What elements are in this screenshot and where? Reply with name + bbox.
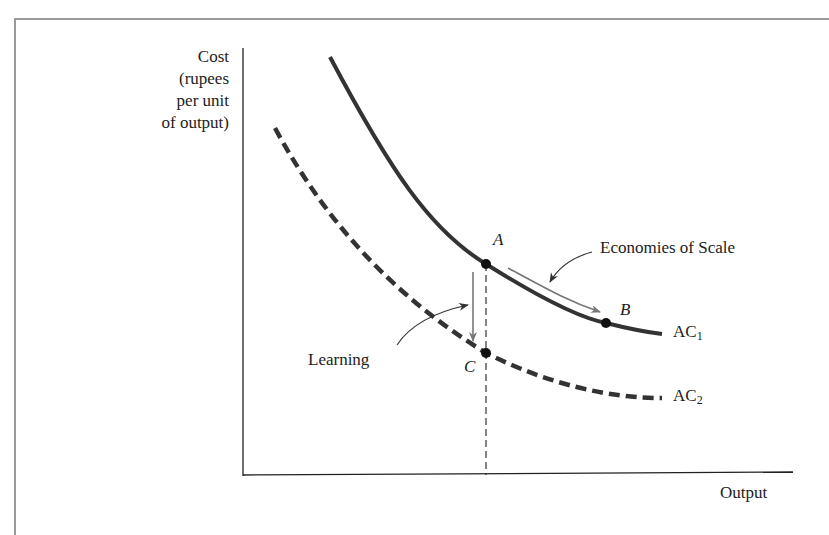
point-c-marker <box>481 348 491 358</box>
x-axis-label: Output <box>720 483 767 503</box>
learning-pointer <box>397 305 468 345</box>
ac2-label-sub: 2 <box>697 393 703 407</box>
chart-canvas <box>0 0 829 535</box>
scale-arrow <box>508 268 600 312</box>
ac2-label-main: AC <box>673 386 697 405</box>
ac1-label-sub: 1 <box>697 329 703 343</box>
ac1-label: AC1 <box>673 322 703 344</box>
point-b-label: B <box>620 300 630 320</box>
scale-pointer <box>550 252 592 282</box>
x-axis <box>243 472 793 475</box>
ac2-label: AC2 <box>673 386 703 408</box>
learning-label: Learning <box>308 350 369 370</box>
point-b-marker <box>601 318 611 328</box>
point-a-marker <box>481 259 491 269</box>
ac1-label-main: AC <box>673 322 697 341</box>
point-a-label: A <box>493 230 503 250</box>
point-c-label: C <box>464 357 475 377</box>
ac1-curve <box>330 57 662 334</box>
economies-of-scale-label: Economies of Scale <box>600 238 735 258</box>
